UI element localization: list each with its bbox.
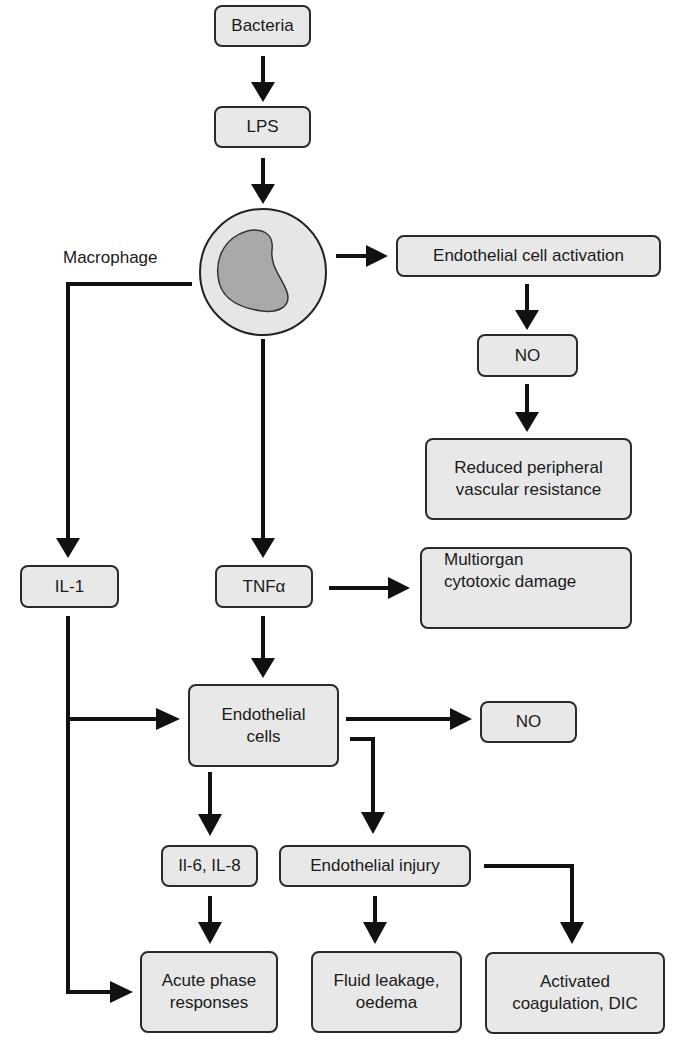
node-tnfa: TNFα [215,565,313,608]
node-label-line1: Acute phase [162,970,257,992]
node-label: TNFα [243,576,286,598]
node-endothelial-activation: Endothelial cell activation [396,235,661,277]
node-label: NO [515,345,541,367]
connector-layer [0,0,679,1059]
arrow-injury-coag [484,866,572,924]
node-label-line2: cytotoxic damage [444,571,576,593]
node-label: Bacteria [231,15,293,37]
node-no-mid: NO [480,701,577,743]
node-lps: LPS [214,106,311,148]
macrophage-cell-icon [200,209,326,335]
node-activated-coagulation: Activated coagulation, DIC [485,952,665,1034]
arrow-macrophage-il1 [68,284,192,540]
node-bacteria: Bacteria [214,5,311,47]
node-label-line1: Activated [540,971,610,993]
node-il1: IL-1 [20,565,119,608]
arrow-endocells-injury [350,739,373,814]
node-label-line2: vascular resistance [456,479,602,501]
node-label-line2: cells [246,726,280,748]
node-label: Endothelial cell activation [433,245,624,267]
line-il1-trunk [68,616,112,992]
node-label: Endothelial injury [310,855,439,877]
node-multiorgan: Multiorgan cytotoxic damage [420,547,632,629]
node-label-line2: oedema [356,992,417,1014]
node-label: LPS [246,116,278,138]
node-acute-phase: Acute phase responses [140,951,278,1033]
node-label-line1: Reduced peripheral [454,457,602,479]
node-label-line2: coagulation, DIC [512,993,638,1015]
node-label-line2: responses [170,992,248,1014]
node-label: NO [516,711,542,733]
node-label-line1: Endothelial [221,704,305,726]
node-reduced-pvr: Reduced peripheral vascular resistance [425,438,632,520]
node-label: IL-1 [55,576,84,598]
node-endothelial-injury: Endothelial injury [279,845,471,887]
node-fluid-leakage: Fluid leakage, oedema [311,951,462,1033]
node-label-line1: Fluid leakage, [334,970,440,992]
node-no-top: NO [477,334,578,377]
node-il6-il8: Il-6, IL-8 [161,845,258,887]
macrophage-label: Macrophage [63,248,158,268]
node-label: Il-6, IL-8 [178,855,240,877]
node-endothelial-cells: Endothelial cells [188,684,339,767]
node-label-line1: Multiorgan [444,549,523,571]
